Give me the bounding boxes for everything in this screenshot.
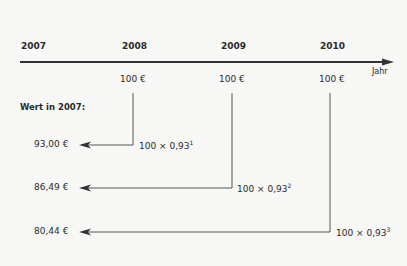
payment-2009: 100 € xyxy=(219,74,245,84)
year-2007: 2007 xyxy=(21,41,46,51)
discount-line-1 xyxy=(88,93,133,145)
present-value-1: 93,00 € xyxy=(34,139,68,149)
present-value-heading: Wert in 2007: xyxy=(20,102,85,112)
formula-exponent: 1 xyxy=(189,139,193,146)
timeline-arrowhead-icon xyxy=(382,59,394,66)
present-value-2: 86,49 € xyxy=(34,182,68,192)
formula-1: 100 × 0,931 xyxy=(139,139,193,151)
axis-label: Jahr xyxy=(372,67,388,76)
formula-2: 100 × 0,932 xyxy=(237,182,291,194)
year-2009: 2009 xyxy=(221,41,246,51)
formula-base: 100 × 0,93 xyxy=(139,141,189,151)
payment-2010: 100 € xyxy=(319,74,345,84)
formula-3: 100 × 0,933 xyxy=(336,226,390,238)
formula-base: 100 × 0,93 xyxy=(237,184,287,194)
formula-exponent: 2 xyxy=(287,182,291,189)
formula-exponent: 3 xyxy=(386,226,390,233)
year-2008: 2008 xyxy=(122,41,147,51)
discount-line-3 xyxy=(88,93,330,232)
payment-2008: 100 € xyxy=(120,74,146,84)
year-2010: 2010 xyxy=(320,41,345,51)
present-value-3: 80,44 € xyxy=(34,226,68,236)
formula-base: 100 × 0,93 xyxy=(336,228,386,238)
